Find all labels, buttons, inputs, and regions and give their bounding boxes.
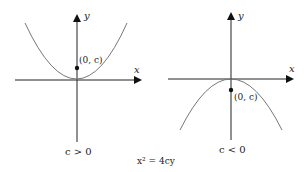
right-condition-label: c < 0 (219, 144, 246, 155)
left-condition-label: c > 0 (65, 146, 92, 157)
right-panel: y x (0, c) c < 0 (168, 10, 295, 155)
left-x-label: x (134, 64, 140, 75)
left-point-label: (0, c) (79, 55, 103, 65)
right-y-label: y (237, 10, 244, 21)
left-panel: y x (0, c) c > 0 (15, 10, 142, 157)
parabola-diagram: y x (0, c) c > 0 y x (0, c) c < 0 x² = 4… (0, 0, 307, 172)
right-y-arrow-icon (227, 12, 235, 20)
left-y-arrow-icon (73, 14, 81, 22)
right-focus-point (229, 88, 233, 92)
right-point-label: (0, c) (234, 92, 258, 102)
left-parabola-curve (25, 23, 127, 79)
right-x-arrow-icon (286, 75, 294, 83)
left-y-label: y (83, 10, 90, 21)
left-x-arrow-icon (134, 76, 142, 84)
left-focus-point (75, 66, 79, 70)
equation-label: x² = 4cy (137, 156, 176, 166)
right-x-label: x (289, 63, 295, 74)
